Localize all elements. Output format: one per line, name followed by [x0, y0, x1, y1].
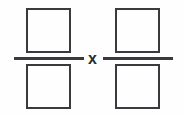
- math-expression-canvas: x: [0, 0, 184, 116]
- right-fraction-bar: [103, 57, 173, 60]
- left-fraction-denominator-box[interactable]: [26, 64, 71, 109]
- left-fraction-numerator-box[interactable]: [26, 8, 71, 53]
- right-fraction-numerator-box[interactable]: [115, 8, 160, 53]
- right-fraction-denominator-box[interactable]: [115, 64, 160, 109]
- left-fraction: [12, 0, 84, 116]
- multiplication-sign-icon: x: [84, 49, 101, 69]
- right-fraction: [101, 0, 173, 116]
- left-fraction-bar: [14, 57, 84, 60]
